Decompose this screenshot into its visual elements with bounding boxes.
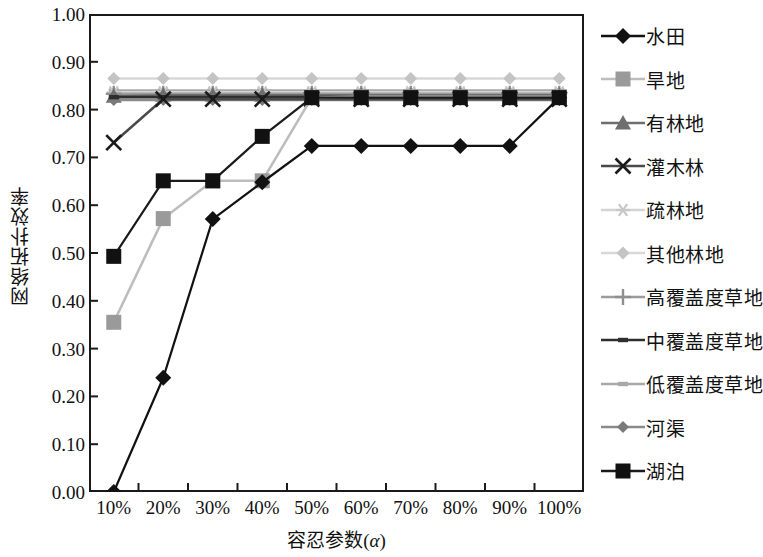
- series-marker-square: [106, 315, 121, 330]
- y-axis-tick-label: 0.50: [37, 244, 85, 263]
- x-axis-title-text: 容忍参数: [287, 530, 363, 551]
- series-line: [114, 98, 560, 492]
- legend-item[interactable]: 灌木林: [600, 145, 759, 189]
- legend-item-label: 有林地: [646, 109, 705, 136]
- legend-marker-asterisk-icon: [600, 198, 646, 222]
- series-marker-square: [156, 173, 171, 188]
- series-marker-dash-gray: [618, 382, 628, 386]
- series-marker-square: [616, 72, 631, 87]
- legend-item-label: 水田: [646, 22, 685, 49]
- series-marker-diamond: [615, 28, 631, 44]
- legend-item[interactable]: 湖泊: [600, 449, 759, 493]
- x-axis-tick-label: 100%: [537, 497, 581, 519]
- series-marker-diamond-mid: [617, 421, 629, 433]
- plot-series-canvas: [89, 14, 584, 492]
- series-marker-asterisk: [616, 204, 630, 216]
- legend-item[interactable]: 高覆盖度草地: [600, 275, 759, 319]
- series-marker-diamond-small: [157, 72, 170, 85]
- legend-marker-square-icon: [600, 459, 646, 483]
- y-axis-tick-label: 0.30: [37, 339, 85, 358]
- legend-marker-diamond-icon: [600, 24, 646, 48]
- legend-item-label: 湖泊: [646, 457, 685, 484]
- series-group: [106, 92, 567, 150]
- series-marker-diamond: [353, 138, 369, 154]
- series-line: [114, 98, 560, 257]
- legend-marker-dash-gray-icon: [600, 372, 646, 396]
- y-axis-tick-label: 0.60: [37, 196, 85, 215]
- series-marker-diamond: [403, 138, 419, 154]
- series-marker-diamond-small: [107, 72, 120, 85]
- chart-legend: 水田旱地有林地灌木林疏林地其他林地高覆盖度草地中覆盖度草地低覆盖度草地河渠湖泊: [600, 14, 759, 493]
- legend-item[interactable]: 疏林地: [600, 188, 759, 232]
- x-axis-title-paren-close: ): [379, 530, 385, 551]
- series-marker-square: [205, 173, 220, 188]
- series-marker-square: [354, 90, 369, 105]
- series-marker-diamond-small: [355, 72, 368, 85]
- legend-item-label: 疏林地: [646, 196, 705, 223]
- y-axis-tick-label: 0.10: [37, 435, 85, 454]
- series-line: [114, 99, 560, 142]
- y-axis-tick-label: 0.90: [37, 52, 85, 71]
- y-axis-tick-label: 0.40: [37, 291, 85, 310]
- series-marker-square: [453, 90, 468, 105]
- series-marker-square: [304, 90, 319, 105]
- x-axis-tick-label: 60%: [344, 497, 379, 519]
- x-axis-tick-labels: 10%20%30%40%50%60%70%80%90%100%: [0, 497, 759, 525]
- series-line: [114, 97, 560, 323]
- series-marker-diamond: [452, 138, 468, 154]
- series-marker-diamond-small: [404, 72, 417, 85]
- y-axis-title-label: 网络拓扑效率: [7, 186, 34, 306]
- legend-item-label: 高覆盖度草地: [646, 283, 763, 310]
- y-axis-tick-label: 1.00: [37, 5, 85, 24]
- series-marker-diamond-small: [553, 72, 566, 85]
- y-axis-tick-label: 0.80: [37, 100, 85, 119]
- series-marker-diamond: [205, 211, 221, 227]
- series-marker-diamond: [304, 138, 320, 154]
- series-marker-x: [106, 135, 121, 150]
- series-marker-diamond-small: [503, 72, 516, 85]
- series-marker-diamond: [106, 484, 122, 492]
- legend-item[interactable]: 其他林地: [600, 232, 759, 276]
- legend-item-label: 灌木林: [646, 153, 705, 180]
- legend-marker-plus-icon: [600, 285, 646, 309]
- legend-marker-square-icon: [600, 67, 646, 91]
- legend-item[interactable]: 旱地: [600, 58, 759, 102]
- series-marker-diamond-small: [256, 72, 269, 85]
- legend-item[interactable]: 低覆盖度草地: [600, 362, 759, 406]
- x-axis-tick-label: 70%: [393, 497, 428, 519]
- x-axis-tick-label: 40%: [245, 497, 280, 519]
- x-axis-title: 容忍参数(α): [89, 525, 584, 552]
- legend-item-label: 低覆盖度草地: [646, 370, 763, 397]
- legend-item[interactable]: 有林地: [600, 101, 759, 145]
- series-marker-diamond-small: [206, 72, 219, 85]
- legend-item[interactable]: 中覆盖度草地: [600, 319, 759, 363]
- legend-marker-diamond-small-icon: [600, 241, 646, 265]
- x-axis-tick-label: 80%: [443, 497, 478, 519]
- series-marker-square: [255, 129, 270, 144]
- series-marker-square: [156, 211, 171, 226]
- legend-item-label: 河渠: [646, 414, 685, 441]
- y-axis-tick-label: 0.20: [37, 387, 85, 406]
- x-axis-tick-label: 20%: [146, 497, 181, 519]
- legend-marker-diamond-mid-icon: [600, 415, 646, 439]
- legend-item[interactable]: 水田: [600, 14, 759, 58]
- y-axis-tick-labels: 0.000.100.200.300.400.500.600.700.800.90…: [33, 0, 85, 557]
- series-marker-square: [616, 463, 631, 478]
- series-marker-dash-dark: [618, 338, 628, 342]
- series-group: [106, 90, 568, 492]
- series-marker-square: [403, 90, 418, 105]
- legend-item-label: 旱地: [646, 66, 685, 93]
- legend-item-label: 其他林地: [646, 240, 724, 267]
- series-marker-plus: [615, 289, 631, 305]
- legend-marker-x-icon: [600, 154, 646, 178]
- y-axis-tick-label: 0.70: [37, 148, 85, 167]
- series-group: [107, 72, 566, 85]
- x-axis-tick-label: 90%: [492, 497, 527, 519]
- series-marker-diamond: [155, 370, 171, 386]
- x-axis-tick-label: 30%: [195, 497, 230, 519]
- legend-item[interactable]: 河渠: [600, 406, 759, 450]
- x-axis-title-symbol: α: [370, 530, 380, 551]
- legend-item-label: 中覆盖度草地: [646, 327, 763, 354]
- x-axis-tick-label: 50%: [294, 497, 329, 519]
